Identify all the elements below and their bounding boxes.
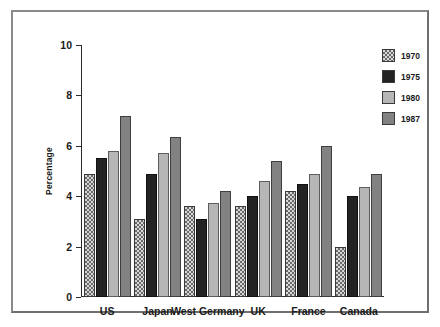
y-axis-tick: 2 — [76, 247, 81, 248]
bar — [170, 137, 181, 297]
legend-label: 1980 — [401, 93, 420, 103]
bar-group: Canada — [334, 45, 384, 297]
y-axis-tick: 10 — [76, 45, 81, 46]
y-axis-title: Percentage — [43, 45, 55, 297]
bar — [96, 158, 107, 297]
plot-area: 0246810 USJapanWest GermanyUKFranceCanad… — [81, 45, 384, 297]
legend-swatch — [382, 91, 395, 104]
bar — [309, 174, 320, 297]
bar-group: France — [283, 45, 333, 297]
y-axis-tick-label: 8 — [66, 89, 72, 101]
bar-group: West Germany — [183, 45, 233, 297]
bar — [184, 206, 195, 297]
legend-swatch — [382, 49, 395, 62]
x-axis-category-label: Canada — [340, 305, 378, 317]
x-axis-category-label: France — [291, 305, 325, 317]
bar — [321, 146, 332, 297]
legend-swatch — [382, 70, 395, 83]
bar — [297, 184, 308, 297]
bar — [196, 219, 207, 297]
bar — [120, 116, 131, 297]
bar — [220, 191, 231, 297]
bar — [108, 151, 119, 297]
bar — [271, 161, 282, 297]
bar — [235, 206, 246, 297]
bar — [158, 153, 169, 297]
bar — [247, 196, 258, 297]
bar-groups: USJapanWest GermanyUKFranceCanada — [82, 45, 384, 297]
y-axis-tick: 6 — [76, 146, 81, 147]
y-axis-tick-label: 2 — [66, 241, 72, 253]
y-axis-tick-label: 0 — [66, 291, 72, 303]
bar — [84, 174, 95, 297]
bar — [134, 219, 145, 297]
figure-frame: Percentage 0246810 USJapanWest GermanyUK… — [11, 10, 429, 313]
legend-label: 1987 — [401, 114, 420, 124]
y-axis-tick-label: 6 — [66, 140, 72, 152]
x-axis-category-label: West Germany — [171, 305, 244, 317]
bar — [146, 174, 157, 297]
legend-item: 1975 — [382, 67, 434, 86]
bar-group: US — [82, 45, 132, 297]
y-axis-tick: 4 — [76, 196, 81, 197]
legend-swatch — [382, 112, 395, 125]
bar — [208, 203, 219, 298]
legend-label: 1970 — [401, 51, 420, 61]
y-axis-tick: 0 — [76, 297, 81, 298]
bar — [371, 174, 382, 297]
bar — [259, 181, 270, 297]
bar — [335, 247, 346, 297]
y-axis-tick-label: 4 — [66, 190, 72, 202]
legend-item: 1970 — [382, 46, 434, 65]
bar-group: UK — [233, 45, 283, 297]
y-axis-tick: 8 — [76, 95, 81, 96]
x-axis-category-label: UK — [251, 305, 266, 317]
y-axis-tick-label: 10 — [60, 39, 72, 51]
legend-item: 1987 — [382, 109, 434, 128]
bar — [285, 191, 296, 297]
bar-group: Japan — [132, 45, 182, 297]
x-axis-category-label: Japan — [142, 305, 172, 317]
legend-item: 1980 — [382, 88, 434, 107]
chart-legend: 1970197519801987 — [382, 46, 434, 130]
bar — [359, 187, 370, 297]
bar — [347, 196, 358, 297]
x-axis-category-label: US — [100, 305, 115, 317]
chart-figure: Percentage 0246810 USJapanWest GermanyUK… — [0, 0, 440, 327]
legend-label: 1975 — [401, 72, 420, 82]
